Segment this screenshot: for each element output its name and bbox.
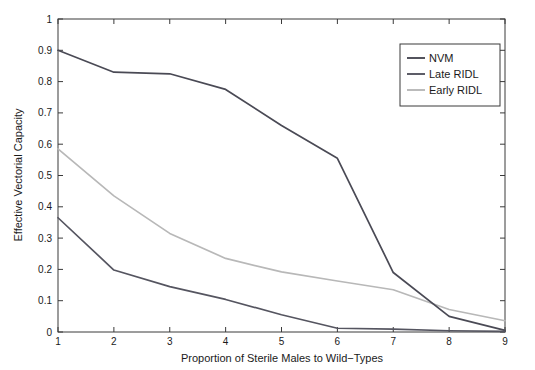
x-tick-label: 1 (55, 336, 61, 347)
x-tick-label: 6 (335, 336, 341, 347)
y-tick-label: 0.5 (38, 170, 52, 181)
y-tick-label: 0.9 (38, 45, 52, 56)
legend-label-late-ridl: Late RIDL (429, 68, 479, 80)
y-tick-label: 0.3 (38, 233, 52, 244)
x-tick-label: 3 (167, 336, 173, 347)
y-tick-label: 0.8 (38, 76, 52, 87)
y-tick-label: 0.7 (38, 107, 52, 118)
line-chart-canvas: 00.10.20.30.40.50.60.70.80.91 123456789 … (0, 0, 535, 370)
y-tick-label: 0.6 (38, 139, 52, 150)
x-tick-label: 8 (446, 336, 452, 347)
y-tick-label: 0.2 (38, 264, 52, 275)
legend-label-nvm: NVM (429, 52, 453, 64)
x-tick-label: 5 (279, 336, 285, 347)
y-axis-title: Effective Vectorial Capacity (12, 108, 24, 242)
chart-figure: 00.10.20.30.40.50.60.70.80.91 123456789 … (0, 0, 535, 370)
x-axis-title: Proportion of Sterile Males to Wild−Type… (181, 352, 384, 364)
x-tick-label: 4 (223, 336, 229, 347)
y-tick-label: 1 (46, 14, 52, 25)
x-tick-label: 9 (502, 336, 508, 347)
chart-legend: NVMLate RIDLEarly RIDL (400, 44, 500, 106)
y-tick-label: 0.1 (38, 295, 52, 306)
legend-label-early-ridl: Early RIDL (429, 84, 482, 96)
y-tick-label: 0 (46, 327, 52, 338)
x-tick-label: 7 (390, 336, 396, 347)
x-tick-label: 2 (111, 336, 117, 347)
y-tick-label: 0.4 (38, 201, 52, 212)
